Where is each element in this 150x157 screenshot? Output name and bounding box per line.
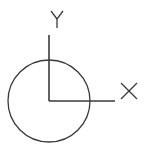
y-label-glyph (51, 11, 63, 28)
x-axis-label: X (129, 98, 130, 99)
y-axis-label: Y (57, 27, 58, 28)
ucs-diagram: Y X (0, 0, 150, 157)
x-label-glyph (121, 83, 137, 99)
